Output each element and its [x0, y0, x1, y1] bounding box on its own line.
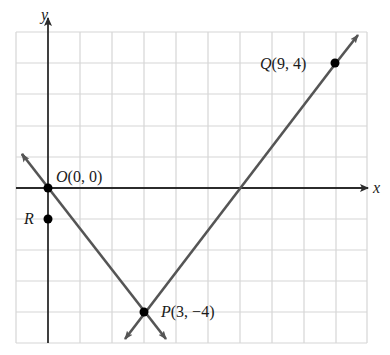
line-pq	[336, 35, 358, 63]
label-o-name: O	[56, 168, 68, 185]
label-q: Q(9, 4)	[260, 55, 306, 73]
y-axis-label: y	[39, 6, 49, 24]
label-o: O(0, 0)	[56, 168, 102, 186]
coordinate-plane: x y O(0, 0) R P(3, −4) Q(9, 4)	[0, 0, 390, 355]
label-o-coords: (0, 0)	[68, 168, 103, 186]
point-r	[44, 215, 53, 224]
point-q	[331, 59, 340, 68]
point-p	[140, 308, 149, 317]
point-o	[44, 184, 53, 193]
label-p-name: P	[160, 303, 171, 320]
label-r: R	[23, 210, 34, 227]
x-axis-label: x	[372, 179, 380, 196]
label-p-coords: (3, −4)	[171, 303, 215, 321]
label-q-coords: (9, 4)	[272, 55, 307, 73]
label-q-name: Q	[260, 55, 272, 72]
label-p: P(3, −4)	[160, 303, 214, 321]
